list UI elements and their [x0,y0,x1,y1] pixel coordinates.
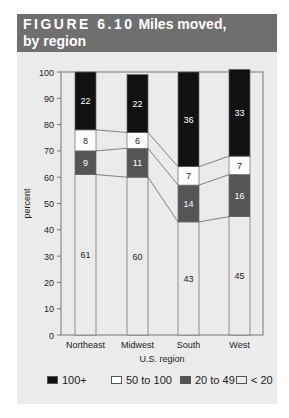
bar-value-label: 7 [186,171,191,181]
x-tick-label: Midwest [121,340,155,350]
bar-value-label: 45 [234,271,244,281]
bar-value-label: 7 [237,161,242,171]
bar-value-label: 22 [132,99,142,109]
stacked-bar-chart: 619822Northeast6011622Midwest4314736Sout… [17,14,277,374]
bar-value-label: 33 [234,108,244,118]
legend-swatch-icon [47,376,58,384]
bar-value-label: 9 [83,158,88,168]
bar-value-label: 36 [183,115,193,125]
legend-item: < 20 [236,374,273,386]
y-tick-label: 90 [44,94,54,104]
bar-value-label: 60 [132,252,142,262]
bar-value-label: 61 [80,250,90,260]
x-tick-label: West [229,340,250,350]
bar-value-label: 6 [135,136,140,146]
legend-swatch-icon [111,376,122,384]
y-tick-label: 40 [44,225,54,235]
bar-value-label: 11 [133,158,142,168]
bar-value-label: 43 [183,274,193,284]
y-tick-label: 50 [44,199,54,209]
x-tick-label: Northeast [66,340,106,350]
bar-value-label: 16 [234,191,244,201]
y-tick-label: 60 [44,173,54,183]
y-tick-label: 10 [44,304,54,314]
bar-value-label: 22 [80,96,90,106]
x-axis-label: U.S. region [139,354,184,364]
bar-value-label: 14 [183,199,193,209]
y-tick-label: 20 [44,278,54,288]
legend-label: 20 to 49 [195,374,235,386]
y-tick-label: 0 [49,331,54,341]
legend-swatch-icon [180,376,191,384]
legend-label: < 20 [251,374,273,386]
y-tick-label: 30 [44,252,54,262]
figure-panel: FIGURE 6.10 Miles moved, by region 61982… [17,14,277,404]
legend-label: 50 to 100 [126,374,172,386]
y-tick-label: 70 [44,146,54,156]
legend-label: 100+ [62,374,87,386]
y-tick-label: 80 [44,120,54,130]
y-tick-label: 100 [39,68,54,78]
legend-item: 100+ [47,374,87,386]
legend-item: 50 to 100 [111,374,172,386]
x-tick-label: South [177,340,201,350]
bar-value-label: 8 [83,136,88,146]
y-axis-label: percent [22,188,32,219]
legend-item: 20 to 49 [180,374,235,386]
legend-swatch-icon [236,376,247,384]
